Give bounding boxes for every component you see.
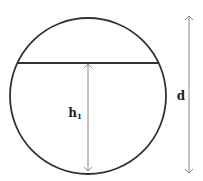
- height-label: h1: [68, 106, 82, 121]
- diameter-label: d: [177, 89, 186, 103]
- pipe-diagram: h1 d: [0, 0, 203, 181]
